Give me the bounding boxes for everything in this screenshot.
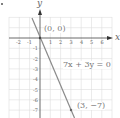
origin-label: (0, 0) bbox=[44, 25, 66, 33]
x-tick: 1 bbox=[49, 40, 52, 45]
x-tick: -1 bbox=[27, 40, 32, 45]
y-tick: -5 bbox=[33, 88, 38, 93]
y-axis-arrow bbox=[38, 9, 42, 15]
x-tick: 6 bbox=[101, 40, 104, 45]
x-tick: 5 bbox=[90, 40, 93, 45]
point-origin bbox=[39, 37, 41, 39]
x-axis-label: x bbox=[115, 33, 120, 42]
x-tick: 2 bbox=[59, 40, 62, 45]
x-tick: 3 bbox=[70, 40, 73, 45]
equation-label: 7x + 3y = 0 bbox=[63, 61, 111, 69]
x-tick: 4 bbox=[80, 40, 83, 45]
y-tick: -2 bbox=[33, 57, 38, 62]
y-tick: -1 bbox=[33, 46, 38, 51]
point-label: (3, −7) bbox=[77, 102, 105, 110]
y-tick: -7 bbox=[33, 108, 38, 113]
x-tick: -2 bbox=[16, 40, 21, 45]
y-tick: -4 bbox=[33, 77, 38, 82]
y-axis-label: y bbox=[37, 0, 42, 8]
y-tick: -6 bbox=[33, 98, 38, 103]
y-tick: -3 bbox=[33, 67, 38, 72]
point-3-neg7 bbox=[70, 109, 72, 111]
